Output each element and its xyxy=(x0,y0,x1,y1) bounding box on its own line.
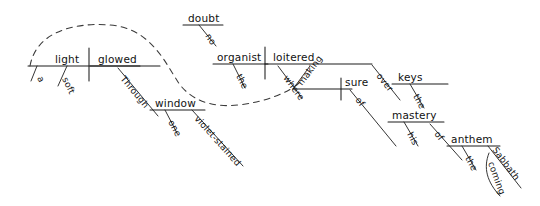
sentence-diagram-canvas: light glowed a soft Through window one v… xyxy=(0,0,540,206)
word-window: window xyxy=(155,97,196,109)
word-loitered: loitered xyxy=(273,51,315,63)
word-anthem: anthem xyxy=(451,133,493,145)
clause-one-group: light glowed a soft Through window one v… xyxy=(28,48,243,168)
word-a: a xyxy=(35,74,46,84)
word-sure: sure xyxy=(345,76,368,88)
word-soft: soft xyxy=(60,75,77,95)
word-doubt: doubt xyxy=(188,12,220,24)
word-mastery: mastery xyxy=(392,109,437,121)
word-organist: organist xyxy=(217,51,261,63)
clause-two-group: organist the loitered where making sure … xyxy=(213,47,522,196)
word-violet-stained: violet-stained xyxy=(193,114,243,168)
word-one: one xyxy=(166,118,183,138)
word-light: light xyxy=(55,53,79,65)
word-his: his xyxy=(405,130,420,147)
word-the-keys: the xyxy=(411,92,427,110)
word-no: no xyxy=(203,32,218,47)
sentence-diagram: light glowed a soft Through window one v… xyxy=(0,0,540,206)
word-keys: keys xyxy=(398,71,423,83)
word-glowed: glowed xyxy=(98,53,137,65)
word-through: Through xyxy=(118,73,151,110)
interjection-group: doubt no xyxy=(183,12,223,47)
word-the-anthem: the xyxy=(463,154,479,172)
word-of-two: of xyxy=(432,129,446,143)
word-the-organist: the xyxy=(234,72,250,90)
